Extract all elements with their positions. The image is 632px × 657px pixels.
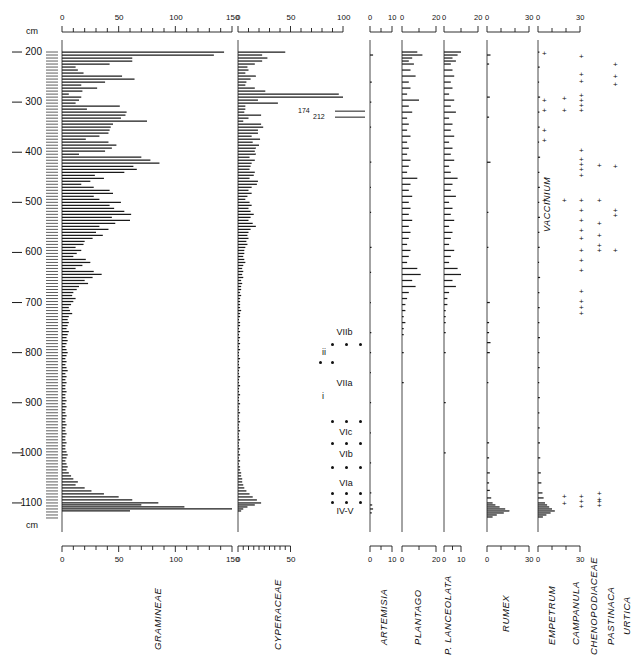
presence-marker-pastinaca: + (597, 197, 602, 205)
gramineae-bottom-axis (62, 546, 232, 552)
taxon-label-chenopodiaceae: CHENOPODIACEAE (588, 557, 599, 655)
depth-unit-label-top: cm (26, 26, 38, 36)
presence-marker-chenopodiaceae: + (579, 78, 584, 86)
lanceolata-top-axis-tick-label: 20 (474, 13, 482, 22)
rumex-top-axis-tick-label: 0 (485, 13, 489, 22)
presence-marker-campanula: + (562, 197, 567, 205)
cyperaceae-top-axis-tick-label: 50 (287, 13, 296, 22)
presence-marker-vaccinium: + (542, 107, 547, 115)
presence-marker-chenopodiaceae: + (579, 207, 584, 215)
taxon-label-urtica: URTICA (621, 596, 632, 635)
depth-tick-label: 1000 (0, 447, 42, 458)
presence-marker-campanula: + (562, 95, 567, 103)
rumex-bottom-axis-tick-label: 30 (525, 555, 533, 564)
depth-unit-label-bottom: cm (26, 520, 38, 530)
cyperaceae-top-axis (238, 26, 343, 32)
rumex-top-axis-tick-label: 30 (525, 13, 533, 22)
presence-marker-vaccinium: + (542, 50, 547, 58)
presence-marker-pastinaca: + (597, 232, 602, 240)
cyperaceae-bottom-axis-tick-label: 0 (236, 555, 240, 564)
empetrum-top-axis (538, 26, 580, 32)
zone-label: VIc (339, 427, 352, 437)
presence-marker-chenopodiaceae: + (579, 503, 584, 511)
plantago-top-axis (402, 26, 436, 32)
taxon-label-campanula: CAMPANULA (570, 581, 581, 645)
empetrum-top-axis-tick-label: 0 (536, 13, 540, 22)
depth-tick-label: 800 (0, 347, 42, 358)
presence-marker-urtica: + (613, 81, 618, 89)
cyperaceae-top-axis-tick-label: 0 (236, 13, 240, 22)
presence-marker-pastinaca: + (597, 247, 602, 255)
presence-marker-urtica: + (613, 212, 618, 220)
vaccinium-inplot-label: VACCINIUM (542, 177, 552, 232)
artemisia-top-axis (370, 26, 392, 32)
taxon-label-gramineae: GRAMINEAE (152, 588, 163, 650)
plantago-bottom-axis-tick-label: 0 (400, 555, 404, 564)
rumex-bottom-axis-tick-label: 0 (485, 555, 489, 564)
rumex-bars (487, 55, 509, 517)
artemisia-top-axis-tick-label: 10 (388, 13, 396, 22)
gramineae-top-axis-tick-label: 100 (169, 13, 182, 22)
presence-marker-chenopodiaceae: + (579, 172, 584, 180)
zone-dot (359, 343, 362, 346)
lanceolata-bars (444, 52, 461, 453)
presence-marker-pastinaca: + (597, 502, 602, 510)
plantago-top-axis-tick-label: 0 (400, 13, 404, 22)
lanceolata-bottom-axis-tick-label: 0 (442, 555, 446, 564)
plantago-bottom-axis-tick-label: 20 (432, 555, 440, 564)
taxon-label-plantago: PLANTAGO (412, 589, 423, 645)
cyperaceae-bottom-axis-tick-label: 50 (287, 555, 296, 564)
presence-marker-chenopodiaceae: + (579, 288, 584, 296)
lanceolata-bottom-axis-tick-label: 10 (457, 555, 465, 564)
presence-marker-chenopodiaceae: + (579, 267, 584, 275)
presence-marker-campanula: + (562, 500, 567, 508)
cyperaceae-top-axis-tick-label: 100 (337, 13, 350, 22)
zone-dot (345, 343, 348, 346)
cyperaceae-bottom-axis (238, 546, 291, 552)
presence-marker-chenopodiaceae: + (579, 235, 584, 243)
taxon-label-artemisia: ARTEMISIA (378, 589, 389, 645)
taxon-label-pastinaca: PASTINACA (605, 586, 616, 645)
presence-marker-chenopodiaceae: + (579, 53, 584, 61)
presence-marker-vaccinium: + (542, 127, 547, 135)
artemisia-bottom-axis-tick-label: 10 (388, 555, 396, 564)
taxon-label-cyperaceae: CYPERACEAE (272, 579, 283, 650)
gramineae-bottom-axis-tick-label: 100 (169, 555, 182, 564)
gramineae-top-axis-tick-label: 0 (60, 13, 64, 22)
presence-marker-pastinaca: + (597, 162, 602, 170)
lanceolata-top-axis (444, 26, 478, 32)
zone-label: VIa (339, 478, 353, 488)
zone-label: IV-V (337, 506, 354, 516)
empetrum-top-axis-tick-label: 30 (576, 13, 584, 22)
overscale-label: 212 (313, 113, 325, 120)
presence-marker-chenopodiaceae: + (579, 310, 584, 318)
gramineae-bars (62, 52, 232, 511)
artemisia-bottom-axis (370, 546, 392, 552)
gramineae-top-axis (62, 26, 232, 32)
empetrum-bars (538, 52, 555, 517)
depth-tick-label: 400 (0, 146, 42, 157)
zone-dot (331, 343, 334, 346)
taxon-label-p-lanceolata: P. LANCEOLATA (442, 575, 453, 655)
depth-tick-label: 900 (0, 397, 42, 408)
empetrum-bottom-axis (538, 546, 580, 552)
empetrum-bottom-axis-tick-label: 30 (576, 555, 584, 564)
overscale-label: 174 (298, 107, 310, 114)
artemisia-bars (370, 55, 373, 513)
plantago-bottom-axis (402, 546, 436, 552)
zone-label: ii (322, 347, 326, 357)
presence-marker-urtica: + (613, 61, 618, 69)
rumex-bottom-axis (487, 546, 529, 552)
lanceolata-top-axis-tick-label: 0 (442, 13, 446, 22)
presence-marker-chenopodiaceae: + (579, 247, 584, 255)
zone-label: i (322, 391, 324, 401)
presence-marker-chenopodiaceae: + (579, 147, 584, 155)
zone-label: VIIa (337, 378, 353, 388)
presence-marker-chenopodiaceae: + (579, 197, 584, 205)
zone-label: VIb (339, 449, 353, 459)
lanceolata-bottom-axis (444, 546, 461, 552)
presence-marker-chenopodiaceae: + (579, 217, 584, 225)
presence-marker-vaccinium: + (542, 97, 547, 105)
plantago-top-axis-tick-label: 20 (432, 13, 440, 22)
